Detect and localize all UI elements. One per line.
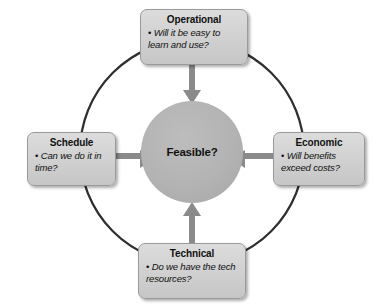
node-box-economic[interactable]: Economic • Will benefits exceed costs?: [273, 132, 365, 186]
node-title-schedule: Schedule: [33, 137, 110, 149]
center-node-feasible: Feasible?: [141, 101, 243, 203]
node-box-operational[interactable]: Operational • Will it be easy to learn a…: [140, 9, 248, 65]
center-node-label: Feasible?: [166, 146, 217, 158]
node-question-schedule: • Can we do it in time?: [33, 150, 110, 173]
arrow-technical-to-center: [183, 202, 201, 243]
bullet-icon-operational: •: [148, 27, 151, 38]
node-question-operational: • Will it be easy to learn and use?: [146, 27, 242, 50]
bullet-icon-technical: •: [146, 261, 149, 272]
arrow-operational-to-center: [183, 64, 201, 104]
node-question-text-technical: Do we have the tech resources?: [146, 261, 235, 284]
node-question-economic: • Will benefits exceed costs?: [279, 150, 359, 173]
bullet-icon-economic: •: [281, 150, 284, 161]
node-question-text-schedule: Can we do it in time?: [35, 150, 101, 173]
feasibility-diagram: Feasible? Operational • Will it be easy …: [0, 0, 384, 307]
bullet-icon-schedule: •: [35, 150, 38, 161]
node-box-technical[interactable]: Technical • Do we have the tech resource…: [138, 243, 246, 299]
node-title-economic: Economic: [279, 137, 359, 149]
node-question-text-economic: Will benefits exceed costs?: [281, 150, 340, 173]
node-question-technical: • Do we have the tech resources?: [144, 261, 240, 284]
node-question-text-operational: Will it be easy to learn and use?: [148, 27, 220, 50]
node-title-technical: Technical: [144, 248, 240, 260]
node-box-schedule[interactable]: Schedule • Can we do it in time?: [27, 132, 116, 186]
node-title-operational: Operational: [146, 14, 242, 26]
